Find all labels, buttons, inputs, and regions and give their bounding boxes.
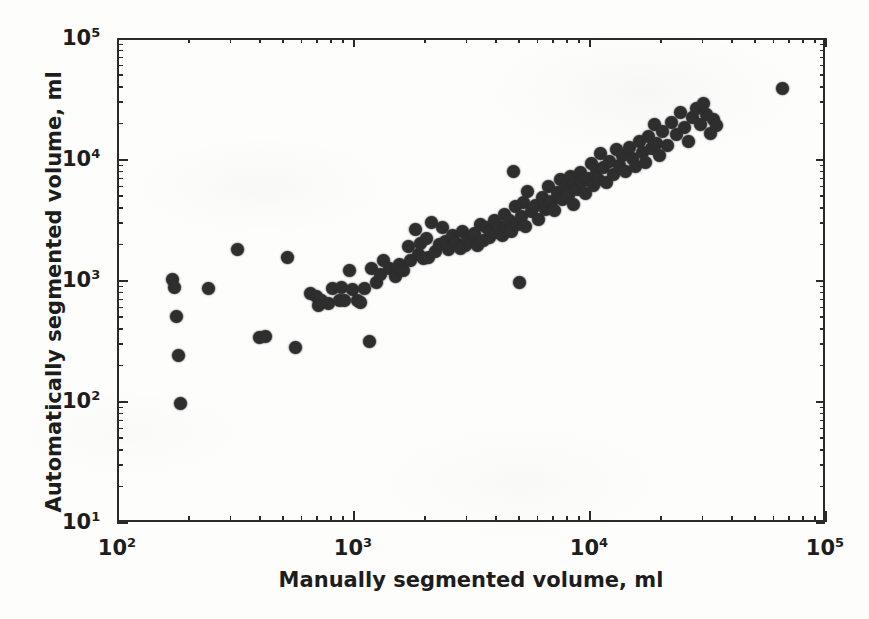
y-minor-tick: [117, 286, 123, 288]
data-point: [710, 119, 723, 132]
data-point: [289, 341, 302, 354]
tick-exponent: 5: [835, 535, 844, 550]
y-minor-tick: [117, 101, 123, 103]
data-point: [682, 135, 695, 148]
y-minor-tick-right: [820, 307, 825, 309]
y-tick-label: 103: [62, 268, 100, 292]
y-minor-tick: [117, 299, 123, 301]
x-minor-tick: [230, 516, 232, 522]
tick-mantissa: 10: [62, 510, 91, 534]
y-minor-tick: [117, 222, 123, 224]
tick-exponent: 2: [91, 388, 100, 403]
y-minor-tick-right: [820, 178, 825, 180]
tick-exponent: 4: [599, 535, 608, 550]
y-minor-tick: [117, 343, 123, 345]
x-minor-tick-top: [259, 38, 261, 43]
x-minor-tick-top: [566, 38, 568, 43]
data-point: [174, 397, 187, 410]
y-major-tick: [117, 38, 128, 40]
x-tick-label: 103: [334, 536, 372, 560]
data-point: [674, 106, 687, 119]
y-tick-label: 104: [62, 147, 100, 171]
x-minor-tick-top: [301, 38, 303, 43]
tick-exponent: 2: [127, 535, 136, 550]
x-minor-tick-top: [316, 38, 318, 43]
x-minor-tick-top: [518, 38, 520, 43]
tick-exponent: 5: [91, 25, 100, 40]
scatter-plot-figure: 102103104105101102103104105 Manually seg…: [0, 0, 869, 619]
y-minor-tick: [117, 428, 123, 430]
y-minor-tick: [117, 437, 123, 439]
y-minor-tick-right: [820, 195, 825, 197]
y-major-tick-right: [816, 401, 825, 403]
y-minor-tick-right: [820, 407, 825, 409]
x-tick-label: 102: [98, 536, 136, 560]
x-minor-tick-top: [773, 38, 775, 43]
data-point: [343, 264, 356, 277]
y-tick-label: 102: [62, 389, 100, 413]
x-minor-tick-top: [342, 38, 344, 43]
y-minor-tick-right: [820, 65, 825, 67]
y-minor-tick: [117, 86, 123, 88]
data-point: [519, 220, 532, 233]
y-minor-tick-right: [820, 343, 825, 345]
tick-mantissa: 10: [98, 536, 127, 560]
data-point: [507, 165, 520, 178]
y-major-tick: [117, 522, 128, 524]
x-minor-tick: [802, 516, 804, 522]
y-axis-label: Automatically segmented volume, ml: [42, 42, 66, 542]
x-minor-tick: [660, 516, 662, 522]
tick-mantissa: 10: [806, 536, 835, 560]
x-minor-tick-top: [788, 38, 790, 43]
y-minor-tick-right: [820, 464, 825, 466]
y-minor-tick-right: [820, 365, 825, 367]
y-minor-tick: [117, 420, 123, 422]
data-point: [338, 294, 351, 307]
y-minor-tick: [117, 307, 123, 309]
y-minor-tick: [117, 186, 123, 188]
y-minor-tick: [117, 486, 123, 488]
y-tick-label: 101: [62, 510, 100, 534]
x-minor-tick: [788, 516, 790, 522]
y-minor-tick-right: [820, 413, 825, 415]
x-minor-tick-top: [731, 38, 733, 43]
tick-exponent: 3: [91, 267, 100, 282]
y-major-tick: [117, 159, 128, 161]
x-minor-tick-top: [188, 38, 190, 43]
tick-mantissa: 10: [62, 26, 91, 50]
y-minor-tick-right: [820, 286, 825, 288]
y-major-tick-right: [816, 38, 825, 40]
data-point: [409, 223, 422, 236]
x-minor-tick-top: [578, 38, 580, 43]
data-point: [202, 282, 215, 295]
y-minor-tick-right: [820, 44, 825, 46]
y-minor-tick-right: [820, 50, 825, 52]
y-minor-tick-right: [820, 244, 825, 246]
x-major-tick: [353, 511, 355, 522]
y-minor-tick-right: [820, 449, 825, 451]
x-minor-tick-top: [702, 38, 704, 43]
x-minor-tick: [754, 516, 756, 522]
x-minor-tick: [566, 516, 568, 522]
x-minor-tick: [578, 516, 580, 522]
tick-mantissa: 10: [62, 268, 91, 292]
x-minor-tick: [773, 516, 775, 522]
x-minor-tick: [552, 516, 554, 522]
x-major-tick-top: [589, 38, 591, 47]
y-minor-tick-right: [820, 165, 825, 167]
x-minor-tick-top: [537, 38, 539, 43]
x-minor-tick-top: [466, 38, 468, 43]
data-point: [661, 139, 674, 152]
tick-mantissa: 10: [62, 389, 91, 413]
y-minor-tick: [117, 44, 123, 46]
x-minor-tick-top: [424, 38, 426, 43]
y-minor-tick-right: [820, 101, 825, 103]
x-minor-tick: [424, 516, 426, 522]
y-minor-tick-right: [820, 299, 825, 301]
x-minor-tick: [702, 516, 704, 522]
y-major-tick: [117, 401, 128, 403]
data-point: [776, 82, 789, 95]
y-minor-tick: [117, 165, 123, 167]
x-minor-tick-top: [495, 38, 497, 43]
tick-mantissa: 10: [62, 147, 91, 171]
